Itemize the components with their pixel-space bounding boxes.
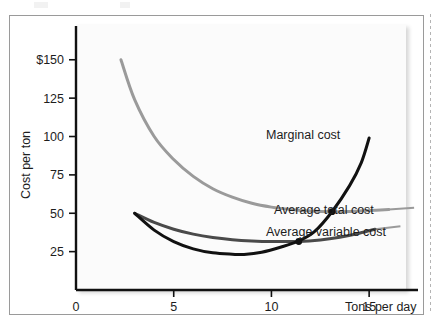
x-axis-title: Tons per day — [345, 300, 417, 314]
atc-leader — [389, 208, 414, 210]
y-axis-tick-label: 100 — [43, 130, 64, 144]
x-axis-tick-labels: 051015 — [73, 300, 377, 314]
y-axis-tick-label: 25 — [50, 245, 64, 259]
y-axis-tick-labels: 255075100125$150 — [36, 53, 64, 259]
y-axis-tick-label: 125 — [43, 92, 64, 106]
x-axis-tick-label: 0 — [73, 300, 80, 314]
mc-crosses-avc-minimum — [295, 238, 302, 245]
cost-curves-chart: 255075100125$150 051015 Cost per ton Ton… — [0, 0, 433, 331]
y-axis-tick-label: 75 — [50, 168, 64, 182]
series-label-marginal-cost: Marginal cost — [266, 128, 341, 142]
y-axis-title: Cost per ton — [19, 131, 33, 199]
x-axis-tick-label: 5 — [170, 300, 177, 314]
y-axis-tick-label: $150 — [36, 53, 64, 67]
x-axis-tick-label: 10 — [264, 300, 278, 314]
y-axis-tick-label: 50 — [50, 207, 64, 221]
series-label-average-total-cost: Average total cost — [274, 203, 374, 217]
series-label-average-variable-cost: Average variable cost — [266, 225, 387, 239]
axes — [76, 26, 418, 290]
